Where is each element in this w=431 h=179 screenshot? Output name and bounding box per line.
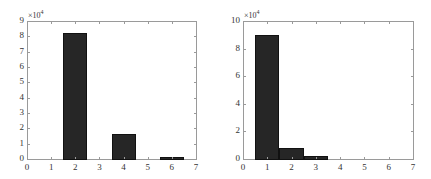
y-tick-mark xyxy=(194,82,196,83)
x-tick-mark xyxy=(243,157,244,159)
y-tick-label: 4 xyxy=(10,93,24,102)
x-tick-mark xyxy=(27,22,28,24)
x-tick-mark xyxy=(75,22,76,24)
y-tick-label: 1 xyxy=(10,139,24,148)
x-tick-mark xyxy=(27,157,28,159)
y-tick-mark xyxy=(28,113,30,114)
x-tick-label: 7 xyxy=(407,163,419,172)
y-tick-mark xyxy=(28,36,30,37)
x-tick-label: 1 xyxy=(261,163,273,172)
x-tick-mark xyxy=(389,22,390,24)
y-tick-mark xyxy=(28,82,30,83)
x-tick-label: 4 xyxy=(334,163,346,172)
x-tick-mark xyxy=(364,22,365,24)
y-tick-mark xyxy=(28,52,30,53)
x-tick-mark xyxy=(75,157,76,159)
y-tick-label: 6 xyxy=(10,62,24,71)
y-tick-label: 0 xyxy=(10,154,24,163)
x-tick-label: 5 xyxy=(142,163,154,172)
y-tick-mark xyxy=(28,144,30,145)
y-tick-mark xyxy=(194,113,196,114)
y-tick-mark xyxy=(194,128,196,129)
y-tick-mark xyxy=(244,104,246,105)
y-tick-label: 4 xyxy=(226,99,240,108)
y-exponent-label: ×104 xyxy=(244,9,260,20)
y-exponent-label: ×104 xyxy=(28,9,44,20)
x-tick-label: 4 xyxy=(118,163,130,172)
y-tick-mark xyxy=(194,36,196,37)
y-tick-mark xyxy=(411,159,413,160)
x-tick-mark xyxy=(51,157,52,159)
y-tick-mark xyxy=(244,131,246,132)
y-tick-mark xyxy=(411,131,413,132)
x-tick-mark xyxy=(316,157,317,159)
x-tick-mark xyxy=(292,22,293,24)
y-tick-mark xyxy=(28,159,30,160)
x-tick-mark xyxy=(243,22,244,24)
y-tick-mark xyxy=(28,128,30,129)
bar xyxy=(255,35,279,160)
y-tick-label: 8 xyxy=(226,44,240,53)
x-tick-label: 3 xyxy=(93,163,105,172)
y-tick-mark xyxy=(194,144,196,145)
y-tick-mark xyxy=(244,21,246,22)
y-tick-mark xyxy=(411,104,413,105)
x-tick-mark xyxy=(99,22,100,24)
x-tick-mark xyxy=(148,157,149,159)
y-tick-mark xyxy=(194,67,196,68)
y-tick-label: 0 xyxy=(226,154,240,163)
y-tick-mark xyxy=(28,21,30,22)
x-tick-label: 2 xyxy=(69,163,81,172)
y-tick-mark xyxy=(244,49,246,50)
y-tick-mark xyxy=(244,76,246,77)
bar xyxy=(63,33,87,160)
x-tick-mark xyxy=(340,22,341,24)
x-tick-mark xyxy=(292,157,293,159)
x-tick-mark xyxy=(148,22,149,24)
y-tick-label: 8 xyxy=(10,31,24,40)
y-tick-label: 9 xyxy=(10,16,24,25)
x-tick-label: 1 xyxy=(45,163,57,172)
y-tick-mark xyxy=(411,76,413,77)
x-tick-mark xyxy=(124,157,125,159)
x-tick-mark xyxy=(51,22,52,24)
y-tick-label: 2 xyxy=(10,123,24,132)
x-tick-label: 0 xyxy=(237,163,249,172)
x-tick-label: 7 xyxy=(190,163,202,172)
y-tick-mark xyxy=(28,98,30,99)
x-tick-mark xyxy=(124,22,125,24)
x-tick-label: 3 xyxy=(310,163,322,172)
x-tick-mark xyxy=(389,157,390,159)
x-tick-label: 0 xyxy=(21,163,33,172)
x-tick-mark xyxy=(413,157,414,159)
y-tick-label: 10 xyxy=(226,16,240,25)
y-tick-label: 3 xyxy=(10,108,24,117)
y-tick-label: 7 xyxy=(10,47,24,56)
x-tick-label: 5 xyxy=(358,163,370,172)
y-tick-mark xyxy=(194,159,196,160)
y-tick-mark xyxy=(28,67,30,68)
y-tick-mark xyxy=(411,49,413,50)
x-tick-mark xyxy=(196,22,197,24)
x-tick-label: 2 xyxy=(286,163,298,172)
y-tick-mark xyxy=(194,52,196,53)
y-tick-mark xyxy=(194,98,196,99)
x-tick-label: 6 xyxy=(166,163,178,172)
x-tick-mark xyxy=(172,157,173,159)
y-tick-label: 6 xyxy=(226,71,240,80)
x-tick-mark xyxy=(413,22,414,24)
x-tick-mark xyxy=(172,22,173,24)
x-tick-mark xyxy=(340,157,341,159)
x-tick-mark xyxy=(267,157,268,159)
y-tick-label: 2 xyxy=(226,126,240,135)
x-tick-mark xyxy=(316,22,317,24)
x-tick-mark xyxy=(99,157,100,159)
x-tick-mark xyxy=(267,22,268,24)
x-tick-mark xyxy=(196,157,197,159)
x-tick-mark xyxy=(364,157,365,159)
y-tick-label: 5 xyxy=(10,77,24,86)
x-tick-label: 6 xyxy=(383,163,395,172)
y-tick-mark xyxy=(244,159,246,160)
